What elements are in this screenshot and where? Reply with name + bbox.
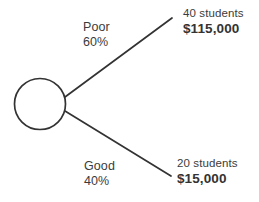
poor-branch-label-group: Poor 60% [83,20,110,50]
good-outcome-label-group: 20 students $15,000 [177,157,238,186]
poor-branch-probability: 60% [83,35,110,50]
poor-outcome-count: 40 students [183,7,244,21]
poor-outcome-value: $115,000 [183,21,244,37]
good-branch-name: Good [84,159,115,174]
chance-node-circle [15,79,66,130]
good-branch-line [65,111,171,176]
decision-tree-diagram: Poor 60% Good 40% 40 students $115,000 2… [0,0,259,202]
good-outcome-count: 20 students [177,157,238,171]
good-branch-probability: 40% [84,174,115,189]
good-branch-label-group: Good 40% [84,159,115,189]
good-outcome-value: $15,000 [177,171,238,187]
poor-branch-name: Poor [83,20,110,35]
poor-outcome-label-group: 40 students $115,000 [183,7,244,36]
poor-branch-line [65,18,172,97]
